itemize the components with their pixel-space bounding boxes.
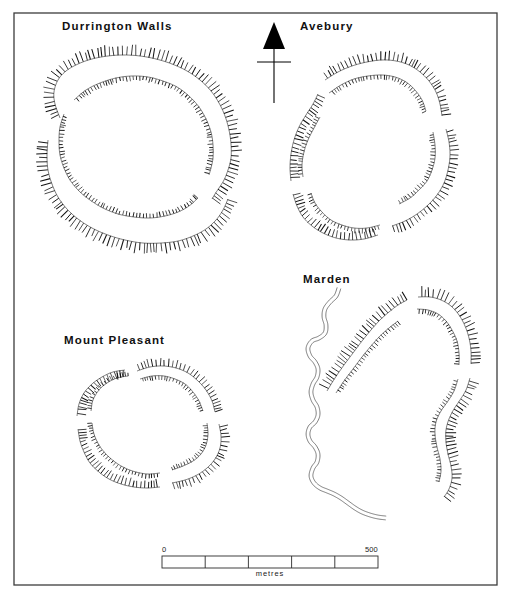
durrington-walls-outer-bank-south-spine <box>47 140 228 243</box>
site-labels-layer: Durrington Walls Avebury Marden Mount Pl… <box>62 20 354 346</box>
north-arrow <box>257 22 291 103</box>
mount-pleasant-bank-se <box>172 424 230 489</box>
avebury-ditch-ne <box>329 75 426 113</box>
henge-plans-figure: 0 500 metres Durrington Walls Avebury Ma… <box>0 0 512 600</box>
mount-pleasant-bank-se-spine <box>172 424 221 483</box>
avebury-ditch-nw <box>297 116 320 177</box>
marden-ditch-north-spine <box>336 321 398 393</box>
site-label-avebury: Avebury <box>300 20 354 32</box>
mount-pleasant-ditch-ne <box>140 376 203 412</box>
avebury-ditch-sw <box>308 193 380 234</box>
scale-bar-outline <box>162 556 378 568</box>
durrington-walls-outer-bank-south <box>36 140 237 254</box>
scale-max-label: 500 <box>365 545 378 554</box>
durrington-walls-inner-ditch-south <box>59 114 198 218</box>
avebury-bank-sw-spine <box>293 194 378 240</box>
mount-pleasant-bank-ne-spine <box>137 366 215 412</box>
scale-min-label: 0 <box>162 545 166 554</box>
mount-pleasant-bank-ne <box>137 358 223 412</box>
avebury-bank-nw-spine <box>290 94 318 181</box>
mount-pleasant-ditch-nw-spine <box>91 376 128 411</box>
avebury-bank-sw <box>293 193 378 240</box>
mount-pleasant-ditch-ne-spine <box>140 376 203 411</box>
mount-pleasant-ditch-se-spine <box>172 423 208 470</box>
marden-bank-northeast-spine <box>418 297 471 364</box>
marden-bank-north-spine <box>327 300 407 391</box>
durrington-walls-outer-bank <box>43 45 242 204</box>
plan-canvas: 0 500 metres Durrington Walls Avebury Ma… <box>0 0 512 600</box>
durrington-walls-inner-ditch-north <box>74 76 213 175</box>
mount-pleasant-bank-sw <box>78 429 160 488</box>
earthwork-hachures-layer <box>36 45 481 502</box>
marden-bank-east-spine <box>444 378 470 497</box>
avebury-bank-se <box>392 129 459 232</box>
scale-bar: 0 500 metres <box>162 545 378 578</box>
site-label-mount-pleasant: Mount Pleasant <box>64 334 165 346</box>
mount-pleasant-ditch-se <box>171 423 208 470</box>
durrington-walls-outer-bank-spine <box>54 55 232 199</box>
site-label-marden: Marden <box>303 273 351 285</box>
avebury-bank-se-spine <box>392 129 450 226</box>
marden-bank-east <box>444 378 479 502</box>
durrington-walls-inner-ditch-north-spine <box>74 76 213 175</box>
scale-unit-caption: metres <box>256 569 284 578</box>
scale-bar-divisions <box>205 556 335 568</box>
avebury-bank-ne <box>324 51 451 116</box>
marden-bank-north <box>319 292 407 391</box>
avebury-ditch-sw-spine <box>311 193 380 228</box>
marden-ditch-northeast <box>417 309 459 365</box>
avebury-ditch-se <box>398 132 435 204</box>
figure-border <box>14 13 497 585</box>
avebury-bank-ne-spine <box>325 60 442 116</box>
marden-ditch-east <box>430 379 458 482</box>
site-label-durrington-walls: Durrington Walls <box>62 20 173 32</box>
durrington-walls-inner-ditch-south-spine <box>59 114 198 218</box>
marden-ditch-east-spine <box>435 379 458 482</box>
